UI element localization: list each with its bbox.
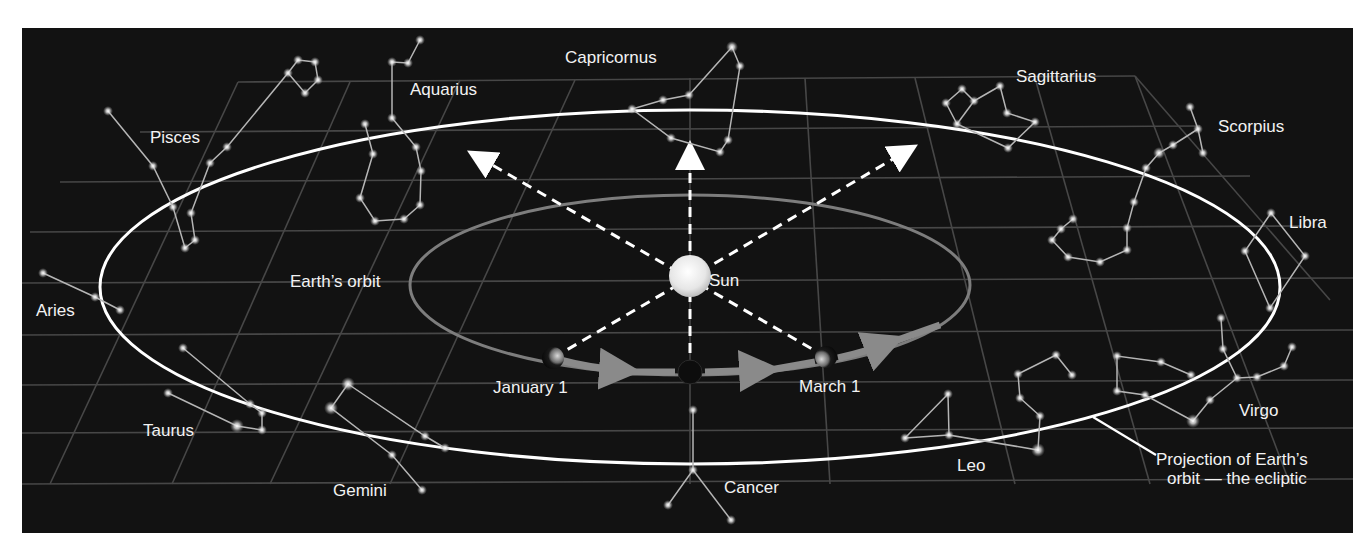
earth-february <box>678 360 702 384</box>
label-cancer: Cancer <box>724 478 779 497</box>
zodiac-diagram: Capricornus Aquarius Pisces Aries Taurus… <box>0 0 1365 554</box>
label-march-1: March 1 <box>799 377 860 396</box>
label-pisces: Pisces <box>150 128 200 147</box>
label-capricornus: Capricornus <box>565 48 657 67</box>
label-sagittarius: Sagittarius <box>1016 67 1096 86</box>
label-ecliptic: Projection of Earth’s orbit — the eclipt… <box>1156 450 1308 488</box>
label-ecliptic-line2: orbit — the ecliptic <box>1156 469 1308 488</box>
label-gemini: Gemini <box>333 481 387 500</box>
label-libra: Libra <box>1289 213 1327 232</box>
label-aries: Aries <box>36 301 75 320</box>
label-ecliptic-line1: Projection of Earth’s <box>1156 450 1308 469</box>
label-leo: Leo <box>957 456 985 475</box>
earth-march <box>815 346 837 368</box>
label-aquarius: Aquarius <box>410 80 477 99</box>
label-earth-orbit: Earth’s orbit <box>290 272 380 291</box>
label-scorpius: Scorpius <box>1218 117 1284 136</box>
sun <box>669 255 711 297</box>
label-january-1: January 1 <box>493 378 568 397</box>
label-virgo: Virgo <box>1239 401 1278 420</box>
label-taurus: Taurus <box>143 421 194 440</box>
earth-january <box>542 347 564 369</box>
label-sun: Sun <box>709 271 739 290</box>
